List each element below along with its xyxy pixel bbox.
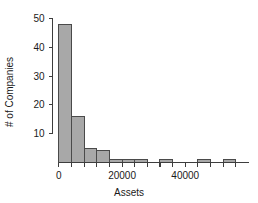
histogram-figure: 1020304050 02000040000 Assets # of Compa… <box>0 0 258 203</box>
y-tick-label: 20 <box>33 99 45 110</box>
y-tick-label: 40 <box>33 42 45 53</box>
histogram-plot: 1020304050 02000040000 Assets # of Compa… <box>0 0 258 203</box>
y-tick-label: 10 <box>33 128 45 139</box>
y-tick-label: 30 <box>33 71 45 82</box>
x-axis-title: Assets <box>114 187 144 198</box>
y-axis-title: # of Companies <box>4 57 15 127</box>
histogram-bar <box>84 148 97 162</box>
x-tick-label: 40000 <box>171 170 199 181</box>
histogram-bar <box>71 116 84 162</box>
histogram-bar <box>97 151 110 163</box>
histogram-bar <box>59 24 72 162</box>
x-tick-label: 0 <box>56 170 62 181</box>
y-tick-label: 50 <box>33 13 45 24</box>
x-tick-label: 20000 <box>108 170 136 181</box>
